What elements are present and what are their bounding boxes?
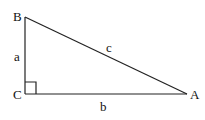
side-label-b: b — [100, 99, 107, 114]
vertex-label-c: C — [13, 87, 22, 102]
side-label-a: a — [14, 49, 20, 64]
vertex-label-a: A — [190, 87, 200, 102]
right-angle-marker-icon — [25, 82, 36, 94]
right-triangle-diagram: B C A a b c — [0, 0, 205, 120]
side-c-line — [25, 17, 187, 94]
vertex-label-b: B — [13, 9, 22, 24]
side-label-c: c — [106, 40, 112, 55]
